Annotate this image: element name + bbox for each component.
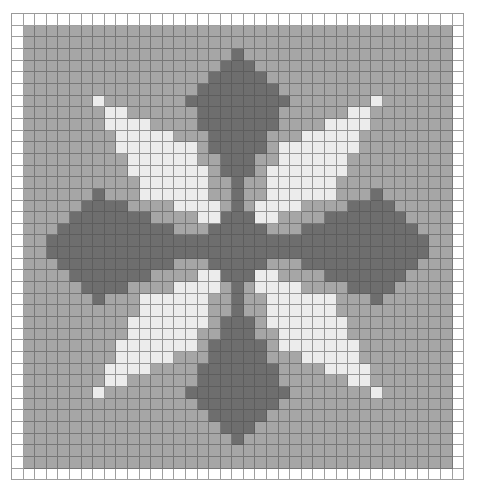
background-cell xyxy=(302,96,314,108)
background-cell xyxy=(47,422,59,434)
background-cell xyxy=(128,399,140,411)
background-cell xyxy=(24,235,36,247)
background-cell xyxy=(24,72,36,84)
background-cell xyxy=(47,177,59,189)
background-cell xyxy=(163,270,175,282)
light-stitch-cell xyxy=(163,177,175,189)
background-cell xyxy=(290,364,302,376)
light-stitch-cell xyxy=(186,189,198,201)
background-cell xyxy=(325,410,337,422)
background-cell xyxy=(267,329,279,341)
border-cell xyxy=(12,247,24,259)
background-cell xyxy=(290,119,302,131)
background-cell xyxy=(198,61,210,73)
background-cell xyxy=(198,37,210,49)
background-cell xyxy=(267,445,279,457)
light-stitch-cell xyxy=(337,329,349,341)
background-cell xyxy=(418,434,430,446)
background-cell xyxy=(406,282,418,294)
dark-stitch-cell xyxy=(151,247,163,259)
background-cell xyxy=(383,317,395,329)
background-cell xyxy=(47,259,59,271)
background-cell xyxy=(348,72,360,84)
background-cell xyxy=(116,399,128,411)
background-cell xyxy=(151,375,163,387)
background-cell xyxy=(24,61,36,73)
dark-stitch-cell xyxy=(244,224,256,236)
background-cell xyxy=(406,212,418,224)
background-cell xyxy=(24,294,36,306)
background-cell xyxy=(441,294,453,306)
dark-stitch-cell xyxy=(302,259,314,271)
background-cell xyxy=(429,317,441,329)
background-cell xyxy=(116,49,128,61)
border-cell xyxy=(360,14,372,26)
background-cell xyxy=(174,26,186,38)
background-cell xyxy=(116,72,128,84)
background-cell xyxy=(105,96,117,108)
background-cell xyxy=(140,201,152,213)
dark-stitch-cell xyxy=(82,201,94,213)
background-cell xyxy=(371,119,383,131)
light-stitch-cell xyxy=(140,294,152,306)
light-stitch-cell xyxy=(163,154,175,166)
light-stitch-cell xyxy=(198,166,210,178)
background-cell xyxy=(151,201,163,213)
background-cell xyxy=(128,445,140,457)
background-cell xyxy=(24,119,36,131)
light-stitch-cell xyxy=(174,317,186,329)
background-cell xyxy=(35,72,47,84)
light-stitch-cell xyxy=(255,270,267,282)
background-cell xyxy=(209,49,221,61)
background-cell xyxy=(406,399,418,411)
dark-stitch-cell xyxy=(232,96,244,108)
background-cell xyxy=(383,387,395,399)
light-stitch-cell xyxy=(290,329,302,341)
background-cell xyxy=(383,375,395,387)
border-cell xyxy=(453,107,465,119)
background-cell xyxy=(186,61,198,73)
light-stitch-cell xyxy=(290,317,302,329)
dark-stitch-cell xyxy=(198,84,210,96)
background-cell xyxy=(418,387,430,399)
dark-stitch-cell xyxy=(209,131,221,143)
background-cell xyxy=(93,434,105,446)
light-stitch-cell xyxy=(313,177,325,189)
light-stitch-cell xyxy=(290,177,302,189)
background-cell xyxy=(58,177,70,189)
border-cell xyxy=(12,119,24,131)
background-cell xyxy=(82,131,94,143)
background-cell xyxy=(383,142,395,154)
background-cell xyxy=(198,259,210,271)
background-cell xyxy=(418,329,430,341)
light-stitch-cell xyxy=(151,317,163,329)
light-stitch-cell xyxy=(209,282,221,294)
background-cell xyxy=(418,340,430,352)
border-cell xyxy=(453,270,465,282)
background-cell xyxy=(70,294,82,306)
knitting-chart-grid xyxy=(11,13,464,480)
background-cell xyxy=(70,364,82,376)
background-cell xyxy=(302,445,314,457)
light-stitch-cell xyxy=(174,294,186,306)
dark-stitch-cell xyxy=(140,212,152,224)
dark-stitch-cell xyxy=(279,387,291,399)
border-cell xyxy=(12,282,24,294)
light-stitch-cell xyxy=(279,305,291,317)
light-stitch-cell xyxy=(279,142,291,154)
border-cell xyxy=(453,96,465,108)
background-cell xyxy=(267,72,279,84)
background-cell xyxy=(395,61,407,73)
background-cell xyxy=(267,154,279,166)
border-cell xyxy=(453,201,465,213)
dark-stitch-cell xyxy=(232,154,244,166)
background-cell xyxy=(82,340,94,352)
light-stitch-cell xyxy=(267,294,279,306)
background-cell xyxy=(209,26,221,38)
light-stitch-cell xyxy=(151,305,163,317)
dark-stitch-cell xyxy=(186,235,198,247)
dark-stitch-cell xyxy=(105,247,117,259)
background-cell xyxy=(325,282,337,294)
background-cell xyxy=(371,154,383,166)
background-cell xyxy=(383,119,395,131)
